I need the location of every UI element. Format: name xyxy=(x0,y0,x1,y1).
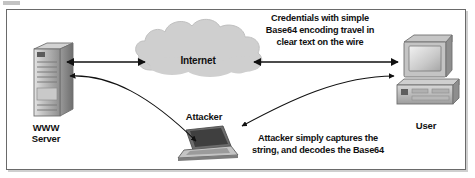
annotation-attacker-capture: Attacker simply captures the string, and… xyxy=(243,133,393,157)
annotation-credentials: Credentials with simple Base64 encoding … xyxy=(258,13,382,48)
figure-root: WWW Server User Attacker Internet Creden… xyxy=(0,0,475,178)
figure-frame xyxy=(6,9,466,170)
internet-label: Internet xyxy=(165,55,231,67)
attacker-label: Attacker xyxy=(170,111,238,122)
server-label: WWW Server xyxy=(8,122,84,144)
user-label: User xyxy=(398,120,454,131)
scan-artifact xyxy=(3,1,20,5)
